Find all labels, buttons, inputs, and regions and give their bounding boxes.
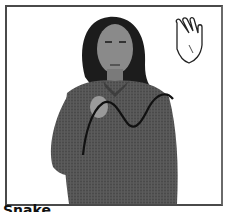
sign-photo-frame bbox=[5, 5, 223, 206]
signer-photo bbox=[7, 7, 221, 204]
open-hand-icon bbox=[176, 18, 202, 63]
sign-caption: Snake bbox=[3, 203, 51, 212]
